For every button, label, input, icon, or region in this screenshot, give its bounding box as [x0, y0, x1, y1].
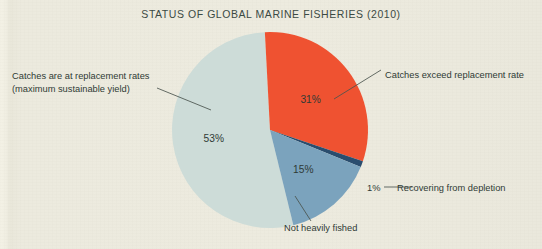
pie-value-exceed: 31%: [300, 94, 320, 105]
label-not-heavily-fished: Not heavily fished: [284, 222, 357, 235]
figure-container: STATUS OF GLOBAL MARINE FISHERIES (2010)…: [0, 0, 542, 249]
label-replacement-line2: (maximum sustainable yield): [12, 83, 149, 96]
label-catches-at-replacement-rates: Catches are at replacement rates (maximu…: [12, 70, 149, 95]
pie-value-replacement: 53%: [204, 133, 224, 144]
pie-chart: 53% 31% 15%: [0, 0, 542, 249]
pie-value-not-fished: 15%: [293, 164, 313, 175]
label-replacement-line1: Catches are at replacement rates: [12, 70, 149, 83]
label-catches-exceed-replacement-rate: Catches exceed replacement rate: [385, 69, 524, 82]
pie-value-recovering: 1%: [367, 182, 380, 195]
label-recovering-from-depletion: Recovering from depletion: [397, 182, 506, 195]
